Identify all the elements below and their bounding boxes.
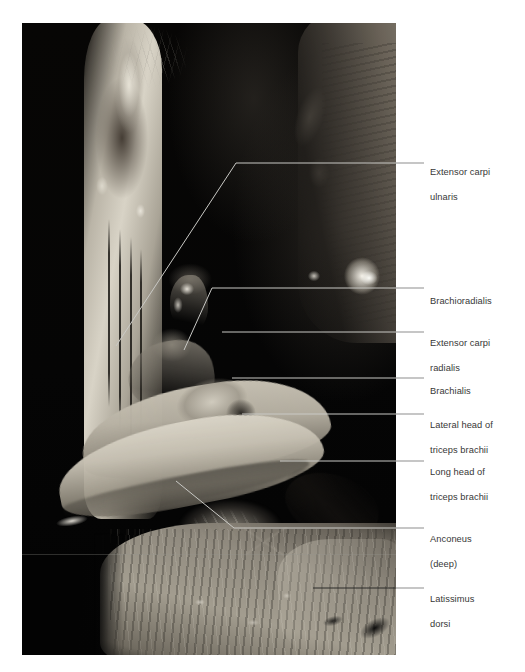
- forearm-tendon-groove: [108, 219, 110, 407]
- brachioradialis-highlight: [172, 295, 184, 315]
- label-line-2: dorsi: [430, 619, 450, 629]
- brachioradialis-highlight: [178, 281, 196, 297]
- anatomy-figure-plate: Extensor carpi ulnaris Brachioradialis E…: [0, 0, 525, 672]
- label-brachialis: Brachialis: [430, 372, 522, 397]
- forearm-fascia-highlight: [94, 173, 110, 199]
- label-brachioradialis: Brachioradialis: [430, 282, 522, 307]
- label-line-2: triceps brachii: [430, 492, 488, 502]
- label-anconeus-deep: Anconeus (deep): [430, 520, 522, 570]
- label-line-1: Long head of: [430, 467, 485, 477]
- dissection-photograph: [22, 23, 396, 655]
- label-line-2: (deep): [430, 559, 457, 569]
- forearm-fascia-highlight: [134, 201, 147, 221]
- tendon-insertion-highlight: [358, 269, 380, 287]
- specimen-hair-strands: [92, 23, 202, 97]
- label-line-1: Brachioradialis: [430, 296, 492, 306]
- label-extensor-carpi-ulnaris: Extensor carpi ulnaris: [430, 153, 522, 203]
- label-line-1: Anconeus: [430, 534, 472, 544]
- forearm-tendon-groove: [119, 229, 121, 433]
- label-extensor-carpi-radialis: Extensor carpi radialis: [430, 324, 522, 374]
- label-line-1: Latissimus: [430, 594, 474, 604]
- label-long-head-of-triceps-brachii: Long head of triceps brachii: [430, 453, 522, 503]
- label-line-1: Extensor carpi: [430, 167, 490, 177]
- label-line-1: Lateral head of: [430, 420, 493, 430]
- label-line-2: ulnaris: [430, 192, 458, 202]
- label-line-1: Extensor carpi: [430, 338, 490, 348]
- label-lateral-head-of-triceps-brachii: Lateral head of triceps brachii: [430, 406, 522, 456]
- latissimus-surface-flecks: [172, 583, 312, 647]
- forearm-fascia-highlight: [82, 343, 94, 375]
- photograph-seam-line: [22, 554, 396, 555]
- photo-lower-left-black-field: [22, 554, 108, 655]
- label-latissimus-dorsi: Latissimus dorsi: [430, 580, 522, 630]
- label-line-1: Brachialis: [430, 386, 471, 396]
- tissue-highlight: [306, 269, 322, 283]
